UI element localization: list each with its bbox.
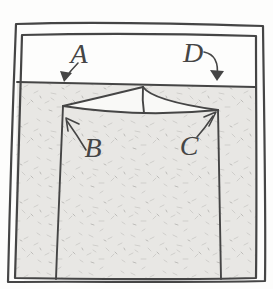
label-d: D	[182, 37, 203, 68]
diagram-svg: A D B C	[0, 0, 273, 289]
label-b: B	[84, 132, 101, 163]
label-c: C	[180, 130, 199, 161]
sketch-canvas: A D B C	[0, 0, 273, 289]
label-a: A	[68, 38, 88, 69]
